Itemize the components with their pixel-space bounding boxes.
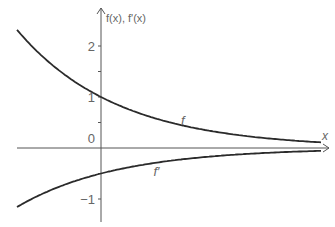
x-axis-label: x <box>321 129 329 143</box>
series-line-f-prime <box>17 151 321 207</box>
series-label-f-prime: f′ <box>154 164 161 179</box>
labels: 21−10xf(x), f'(x)ff′ <box>80 12 329 207</box>
y-tick-label: −1 <box>80 192 95 207</box>
y-tick-label: 2 <box>88 39 95 54</box>
y-tick-label: 1 <box>88 90 95 105</box>
chart: 21−10xf(x), f'(x)ff′ <box>0 0 335 227</box>
y-axis-label: f(x), f'(x) <box>106 12 146 24</box>
series-line-f <box>17 30 321 142</box>
origin-label: 0 <box>88 131 95 146</box>
curves <box>17 30 321 207</box>
axes <box>17 8 329 222</box>
